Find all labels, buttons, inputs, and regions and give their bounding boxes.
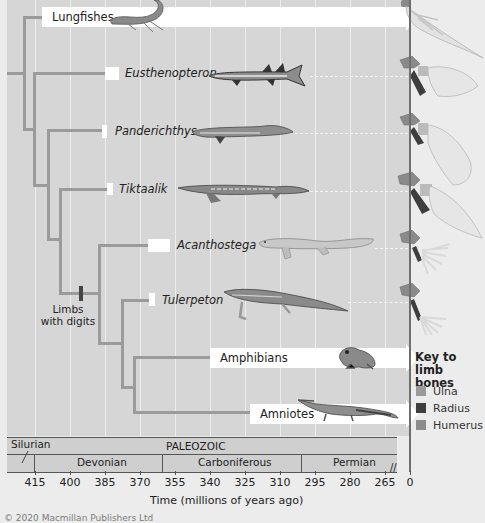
axis-tick: [35, 471, 36, 475]
frog-illustration: [337, 346, 379, 370]
branch: [98, 244, 101, 345]
branch-lungfishes: [23, 16, 43, 19]
lineage-arrow-lungfishes: Lungfishes: [42, 7, 406, 27]
silurian-label: Silurian: [11, 438, 50, 450]
gridline: [35, 0, 36, 436]
tick-label: 370: [125, 476, 155, 489]
taxon-label-acanthostega: Acanthostega: [177, 238, 256, 252]
dashed-guide: [310, 76, 408, 77]
fossil-range-box: [149, 293, 155, 306]
branch: [23, 16, 26, 131]
taxon-label-eusthenopteron: Eusthenopteron: [125, 66, 217, 80]
eusthenopteron-limb-illustration: [398, 56, 485, 110]
taxon-label-amphibians: Amphibians: [220, 351, 288, 365]
branch-acanthostega: [98, 244, 148, 247]
gridline: [385, 0, 386, 436]
branch: [133, 356, 136, 414]
axis-tick: [350, 471, 351, 475]
tick-label: 355: [160, 476, 190, 489]
gridline: [315, 0, 316, 436]
gridline: [70, 0, 71, 436]
period-boundary: [162, 454, 163, 472]
fossil-range-box: [107, 183, 113, 195]
radius-swatch: [416, 403, 426, 413]
phylogeny-figure: Limbs with digits Lungfishes Eusthenopte…: [0, 0, 485, 523]
fossil-range-box: [105, 67, 119, 80]
tiktaalik-illustration: [176, 181, 311, 205]
axis-tick: [280, 471, 281, 475]
branch-amphibians: [133, 356, 211, 359]
branch-tiktaalik: [59, 188, 108, 191]
taxon-label-panderichthys: Panderichthys: [115, 124, 197, 138]
era-label: PALEOZOIC: [166, 440, 225, 452]
key-item-ulna: Ulna: [416, 385, 458, 398]
branch: [121, 299, 124, 389]
dashed-guide: [310, 191, 408, 192]
tick-label: 385: [90, 476, 120, 489]
key-item-humerus: Humerus: [416, 419, 483, 432]
fossil-range-box: [102, 125, 107, 138]
branch: [33, 72, 36, 187]
branch-panderichthys: [47, 129, 103, 132]
boundary-slash: [20, 451, 30, 463]
tick-label: 400: [55, 476, 85, 489]
limbs-with-digits-label: Limbs with digits: [38, 303, 98, 327]
humerus-swatch: [416, 420, 426, 430]
tick-label: 280: [335, 476, 365, 489]
axis-tick: [410, 471, 411, 475]
tulerpeton-illustration: [222, 287, 350, 323]
branch: [47, 129, 50, 241]
axis-tick: [175, 471, 176, 475]
permian-label: Permian: [333, 456, 376, 468]
axis-tick: [385, 471, 386, 475]
tick-label: 325: [230, 476, 260, 489]
eusthenopteron-illustration: [207, 62, 307, 90]
lungfish-limb-illustration: [398, 0, 485, 60]
gridline: [105, 0, 106, 436]
axis-tick: [140, 471, 141, 475]
acanthostega-illustration: [257, 235, 377, 261]
tick-label: 295: [300, 476, 330, 489]
taxon-label-tiktaalik: Tiktaalik: [119, 182, 168, 196]
branch: [59, 188, 62, 295]
gridline: [350, 0, 351, 436]
lungfish-illustration: [108, 0, 173, 34]
taxon-label-tulerpeton: Tulerpeton: [162, 293, 223, 307]
branch-tulerpeton: [121, 299, 150, 302]
crocodile-illustration: [296, 398, 401, 422]
axis-break-icon: //: [390, 462, 397, 473]
period-boundary: [301, 454, 302, 472]
devonian-label: Devonian: [77, 456, 127, 468]
tick-label: 0: [395, 476, 425, 489]
axis-tick: [210, 471, 211, 475]
axis-tick: [315, 471, 316, 475]
tick-label: 415: [20, 476, 50, 489]
key-item-radius: Radius: [416, 402, 470, 415]
tick-label: 310: [265, 476, 295, 489]
taxon-label-lungfishes: Lungfishes: [52, 10, 114, 24]
tick-label: 340: [195, 476, 225, 489]
branch-eusthenopteron: [33, 72, 105, 75]
ulna-swatch: [416, 386, 426, 396]
branch-amniotes: [133, 411, 251, 414]
copyright-notice: © 2020 Macmillan Publishers Ltd: [4, 513, 153, 523]
axis-tick: [70, 471, 71, 475]
limbs-with-digits-mark: [79, 286, 83, 301]
period-boundary: [34, 454, 35, 472]
x-axis-title: Time (millions of years ago): [150, 494, 303, 507]
axis-tick: [105, 471, 106, 475]
axis-tick: [245, 471, 246, 475]
branch: [98, 342, 123, 345]
dashed-guide: [295, 133, 408, 134]
panderichthys-illustration: [190, 122, 295, 146]
fossil-range-box: [148, 239, 170, 252]
present-day-divider: [409, 0, 411, 472]
carboniferous-label: Carboniferous: [198, 456, 272, 468]
